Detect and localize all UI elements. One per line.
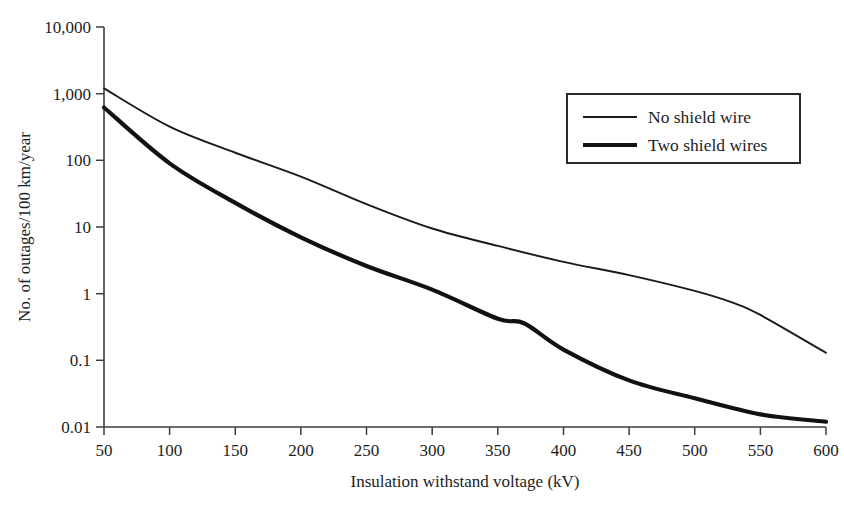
- x-tick-group: 50 100 150 200 250 300 350 400 450 500 5…: [96, 427, 839, 460]
- x-tick-label: 450: [616, 441, 642, 460]
- y-tick-label: 10: [74, 218, 91, 237]
- x-tick-label: 550: [748, 441, 774, 460]
- chart-canvas: 10,000 1,000 100 10 1 0.1 0.01 50 100 15…: [0, 0, 844, 510]
- axis-group: [104, 27, 826, 427]
- y-tick-group: 10,000 1,000 100 10 1 0.1 0.01: [44, 18, 104, 437]
- y-tick-label: 0.01: [61, 418, 91, 437]
- x-tick-label: 600: [813, 441, 839, 460]
- chart-figure: 10,000 1,000 100 10 1 0.1 0.01 50 100 15…: [0, 0, 844, 510]
- x-axis-title: Insulation withstand voltage (kV): [351, 472, 580, 491]
- x-tick-label: 300: [419, 441, 445, 460]
- y-tick-label: 10,000: [44, 18, 91, 37]
- y-tick-label: 0.1: [70, 351, 91, 370]
- x-tick-label: 400: [551, 441, 577, 460]
- x-tick-label: 200: [288, 441, 314, 460]
- y-axis-title: No. of outages/100 km/year: [15, 132, 34, 322]
- legend-label-no-shield-wire: No shield wire: [648, 107, 751, 127]
- x-tick-label: 150: [223, 441, 249, 460]
- x-tick-label: 350: [485, 441, 511, 460]
- x-tick-label: 100: [157, 441, 183, 460]
- y-tick-label: 1: [83, 285, 92, 304]
- x-tick-label: 500: [682, 441, 708, 460]
- legend: No shield wire Two shield wires: [567, 94, 800, 163]
- legend-label-two-shield-wires: Two shield wires: [648, 135, 768, 155]
- y-tick-label: 100: [66, 151, 92, 170]
- y-tick-label: 1,000: [53, 85, 91, 104]
- x-tick-label: 50: [96, 441, 113, 460]
- x-tick-label: 250: [354, 441, 380, 460]
